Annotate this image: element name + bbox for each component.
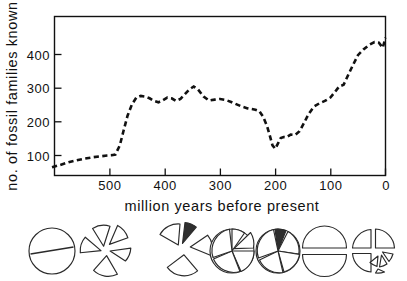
pie-5 [256, 229, 300, 273]
x-tick-label-200: 200 [264, 178, 287, 193]
y-tick-label-100: 100 [27, 149, 50, 164]
fossil-diversity-figure: 400 300 200 100 no. of fossil families k… [0, 0, 407, 281]
x-tick-label-500: 500 [98, 178, 121, 193]
y-tick-label-300: 300 [27, 81, 50, 96]
x-tick-label-300: 300 [209, 178, 232, 193]
y-tick-label-200: 200 [27, 115, 50, 130]
y-axis-title: no. of fossil families known [4, 1, 20, 190]
x-tick-label-400: 400 [154, 178, 177, 193]
y-tick-label-400: 400 [27, 48, 50, 63]
pie-1 [29, 228, 75, 274]
x-tick-label-100: 100 [319, 178, 342, 193]
x-axis-title: million years before present [125, 198, 320, 214]
pie-4 [210, 229, 254, 273]
x-tick-label-0: 0 [382, 178, 390, 193]
